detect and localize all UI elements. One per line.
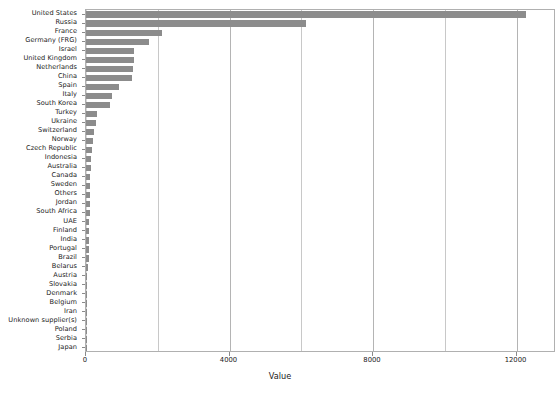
bar-row — [86, 335, 555, 343]
y-axis-label: Poland — [55, 326, 77, 333]
y-axis-label: Brazil — [58, 254, 77, 261]
bar-row — [86, 10, 555, 18]
bar — [86, 318, 87, 324]
bar-row — [86, 263, 555, 271]
bar — [86, 156, 91, 162]
bar-row — [86, 254, 555, 262]
y-axis-label: Canada — [52, 172, 77, 179]
y-axis-label: Iran — [64, 308, 77, 315]
y-axis-label: Serbia — [56, 335, 77, 342]
bar — [86, 264, 88, 270]
bar-row — [86, 191, 555, 199]
y-axis-label: Spain — [58, 82, 77, 89]
y-axis-label: Jordan — [56, 199, 77, 206]
bar — [86, 192, 90, 198]
y-axis-label: Australia — [47, 163, 77, 170]
y-axis-label: United States — [32, 10, 77, 17]
y-axis-label: Netherlands — [36, 64, 77, 71]
x-axis-tick — [372, 352, 373, 356]
bar — [86, 219, 89, 225]
bar — [86, 66, 133, 72]
bar-row — [86, 236, 555, 244]
bar — [86, 102, 110, 108]
y-axis-label: United Kingdom — [23, 55, 77, 62]
bar-row — [86, 110, 555, 118]
bar — [86, 20, 306, 26]
bar-row — [86, 65, 555, 73]
y-axis-label: India — [61, 236, 77, 243]
y-axis-label: Unknown supplier(s) — [8, 317, 77, 324]
x-axis-tick — [516, 352, 517, 356]
bar-row — [86, 308, 555, 316]
bar-row — [86, 245, 555, 253]
bar-row — [86, 326, 555, 334]
x-axis-tick-group: 04000800012000 — [85, 352, 555, 366]
bar-row — [86, 281, 555, 289]
bar-row — [86, 164, 555, 172]
y-axis-label: France — [55, 28, 77, 35]
y-axis-label: Norway — [52, 136, 77, 143]
y-axis-label: UAE — [63, 218, 77, 225]
bar — [86, 57, 134, 63]
bar — [86, 201, 90, 207]
bar-row — [86, 101, 555, 109]
bar-chart-figure: United StatesRussiaFranceGermany (FRG)Is… — [0, 0, 560, 402]
bar — [86, 75, 132, 81]
y-axis-label: Austria — [53, 272, 77, 279]
bar — [86, 246, 89, 252]
bar-row — [86, 19, 555, 27]
bar-group — [86, 10, 554, 351]
bar-row — [86, 182, 555, 190]
y-axis-label: Czech Republic — [26, 145, 77, 152]
bar — [86, 255, 89, 261]
y-axis-label: Finland — [53, 227, 77, 234]
y-axis-label: Japan — [58, 344, 77, 351]
y-axis-label: Indonesia — [45, 154, 77, 161]
bar-row — [86, 155, 555, 163]
bar — [86, 291, 87, 297]
bar — [86, 210, 90, 216]
bar-row — [86, 119, 555, 127]
bar-row — [86, 128, 555, 136]
bar — [86, 48, 134, 54]
y-axis-label: Israel — [59, 46, 77, 53]
y-axis-label: Others — [55, 190, 77, 197]
bar — [86, 309, 87, 315]
y-axis-label: Slovakia — [49, 281, 77, 288]
bar — [86, 147, 92, 153]
x-axis-title: Value — [0, 371, 560, 381]
bar — [86, 165, 91, 171]
bar — [86, 84, 119, 90]
bar-row — [86, 74, 555, 82]
bar — [86, 237, 89, 243]
bar-row — [86, 38, 555, 46]
x-axis-tick-label: 4000 — [220, 356, 237, 364]
bar-row — [86, 299, 555, 307]
bar — [86, 345, 87, 351]
y-axis-label: Belarus — [52, 263, 77, 270]
y-axis-label: China — [58, 73, 77, 80]
bar-row — [86, 209, 555, 217]
y-axis-label: Turkey — [55, 109, 77, 116]
bar-row — [86, 218, 555, 226]
x-axis-tick-label: 0 — [83, 356, 87, 364]
bar — [86, 129, 94, 135]
x-axis-tick — [85, 352, 86, 356]
bar — [86, 138, 93, 144]
bar-row — [86, 47, 555, 55]
y-axis-label: Italy — [62, 91, 77, 98]
y-axis-label: Ukraine — [51, 118, 77, 125]
y-axis-label: Belgium — [50, 299, 77, 306]
bar — [86, 228, 89, 234]
bar — [86, 39, 149, 45]
bar-row — [86, 56, 555, 64]
bar-row — [86, 317, 555, 325]
y-axis-label-group: United StatesRussiaFranceGermany (FRG)Is… — [0, 9, 85, 352]
x-axis-tick — [229, 352, 230, 356]
bar-row — [86, 272, 555, 280]
bar-row — [86, 29, 555, 37]
bar-row — [86, 137, 555, 145]
y-axis-label: Russia — [55, 19, 77, 26]
plot-area — [85, 9, 555, 352]
y-axis-label: Portugal — [49, 245, 77, 252]
